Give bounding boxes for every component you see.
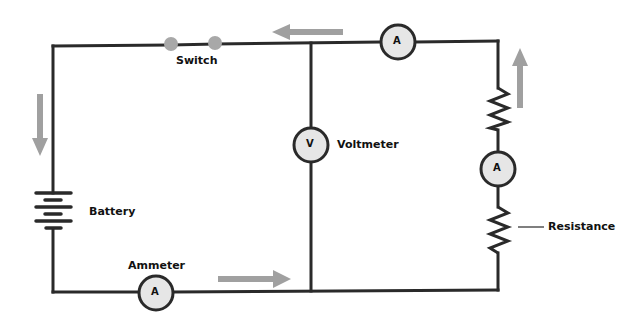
- ammeter-label: Ammeter: [128, 259, 185, 272]
- ammeter-bottom-symbol: A: [151, 286, 159, 297]
- resistor-lower: [490, 207, 508, 253]
- battery-label: Battery: [89, 205, 135, 218]
- switch-contact-right[interactable]: [208, 36, 222, 50]
- arrow-left-icon: [272, 24, 343, 40]
- resistance-label: Resistance: [548, 220, 615, 233]
- ammeter-right-symbol: A: [493, 162, 501, 173]
- resistor-upper: [490, 88, 508, 130]
- voltmeter-symbol: V: [306, 138, 314, 149]
- arrow-right-icon: [218, 270, 291, 288]
- voltmeter-label: Voltmeter: [337, 138, 399, 151]
- switch-label: Switch: [176, 54, 217, 67]
- battery-symbol: [36, 193, 71, 228]
- arrow-down-icon: [32, 94, 48, 156]
- switch-contact-left[interactable]: [164, 37, 178, 51]
- bottom-wire: [53, 290, 498, 292]
- top-wire: [53, 41, 498, 46]
- circuit-diagram: [0, 0, 639, 325]
- arrow-up-icon: [512, 48, 528, 108]
- ammeter-top-symbol: A: [393, 35, 401, 46]
